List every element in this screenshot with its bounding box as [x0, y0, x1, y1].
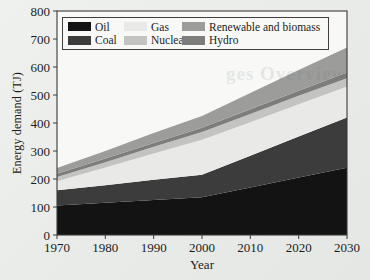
- y-tick-label: 300: [31, 144, 51, 159]
- legend-swatch-oil: [68, 22, 91, 31]
- y-tick-label: 100: [31, 200, 51, 215]
- legend-label-hydro: Hydro: [209, 34, 238, 46]
- x-tick-label: 1970: [44, 240, 70, 255]
- x-tick-label: 2030: [334, 240, 360, 255]
- x-tick-label: 1980: [92, 240, 118, 255]
- legend-label-oil: Oil: [95, 21, 110, 33]
- x-tick-label: 2020: [286, 240, 312, 255]
- y-tick-label: 700: [31, 32, 51, 47]
- x-tick-label: 2000: [189, 240, 215, 255]
- legend-swatch-coal: [68, 36, 91, 45]
- legend-label-gas: Gas: [151, 21, 169, 33]
- energy-demand-figure: 0100200300400500600700800197019801990200…: [0, 0, 370, 280]
- y-tick-label: 800: [31, 4, 51, 19]
- legend-item-gas: Gas: [124, 20, 182, 34]
- legend-item-coal: Coal: [68, 34, 124, 48]
- legend-item-oil: Oil: [68, 20, 124, 34]
- chart-legend: OilCoalGasNuclearRenewable and biomassHy…: [62, 17, 329, 50]
- x-tick-label: 1990: [141, 240, 167, 255]
- y-tick-label: 200: [31, 172, 51, 187]
- y-tick-label: 600: [31, 60, 51, 75]
- legend-swatch-gas: [124, 22, 147, 31]
- y-tick-label: 500: [31, 88, 51, 103]
- x-tick-label: 2010: [237, 240, 263, 255]
- legend-item-hydro: Hydro: [182, 34, 328, 48]
- legend-item-renewable-and-biomass: Renewable and biomass: [182, 20, 328, 34]
- legend-label-renewable-and-biomass: Renewable and biomass: [209, 21, 320, 33]
- legend-item-nuclear: Nuclear: [124, 34, 182, 48]
- legend-swatch-hydro: [182, 36, 205, 45]
- legend-swatch-renewable-and-biomass: [182, 22, 205, 31]
- y-tick-label: 400: [31, 116, 51, 131]
- legend-label-coal: Coal: [95, 34, 117, 46]
- y-axis-title: Energy demand (TJ): [10, 72, 25, 174]
- x-axis-title: Year: [190, 257, 214, 273]
- legend-swatch-nuclear: [124, 36, 147, 45]
